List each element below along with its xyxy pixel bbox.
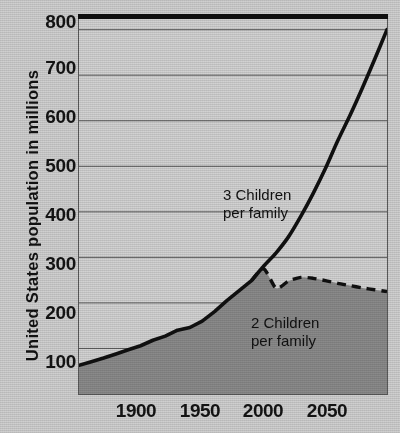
x-tick-label-1950: 1950 (165, 400, 235, 422)
y-tick-label-200: 200 (16, 302, 76, 324)
x-tick-label-2050: 2050 (292, 400, 362, 422)
y-tick-label-100: 100 (16, 351, 76, 373)
x-tick-label-1900: 1900 (101, 400, 171, 422)
y-tick-label-500: 500 (16, 155, 76, 177)
y-tick-label-600: 600 (16, 106, 76, 128)
area-fill (79, 269, 387, 394)
annotation-3-children: 3 Children per family (223, 186, 291, 221)
y-tick-label-300: 300 (16, 253, 76, 275)
y-tick-label-800: 800 (16, 11, 76, 33)
y-tick-label-700: 700 (16, 57, 76, 79)
y-tick-label-400: 400 (16, 204, 76, 226)
population-chart: United States population in millions 100… (0, 0, 400, 433)
annotation-2-children: 2 Children per family (251, 314, 319, 349)
top-rule (78, 14, 388, 19)
x-tick-label-2000: 2000 (228, 400, 298, 422)
